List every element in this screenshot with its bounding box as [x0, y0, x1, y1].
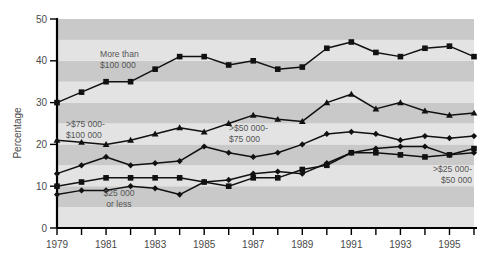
data-point-marker — [250, 58, 256, 64]
x-tick-label: 1987 — [242, 239, 265, 250]
x-tick-label: 1991 — [340, 239, 363, 250]
annotation-line: More than — [100, 49, 139, 59]
data-point-marker — [177, 54, 183, 60]
data-point-marker — [79, 179, 85, 185]
x-tick-label: 1981 — [95, 239, 118, 250]
y-tick-label: 20 — [36, 139, 48, 150]
data-point-marker — [103, 175, 109, 181]
y-tick-label: 30 — [36, 97, 48, 108]
ann-more-than-100000: More than$100 000 — [100, 49, 139, 70]
y-tick-label: 0 — [41, 223, 47, 234]
annotation-line: >$50 000- — [229, 123, 268, 133]
data-point-marker — [128, 79, 134, 85]
chart-canvas: 01020304050 1979198119831985198719891991… — [0, 0, 497, 268]
data-point-marker — [177, 175, 183, 181]
x-tick-label: 1995 — [438, 239, 461, 250]
data-point-marker — [54, 100, 60, 106]
data-point-marker — [226, 62, 232, 68]
data-point-marker — [128, 175, 134, 181]
data-point-marker — [324, 45, 330, 51]
data-point-marker — [398, 54, 404, 60]
data-point-marker — [54, 183, 60, 189]
data-point-marker — [275, 66, 281, 72]
data-point-marker — [79, 89, 85, 95]
y-axis-title: Percentage — [12, 107, 23, 159]
y-axis-ticks: 01020304050 — [36, 14, 57, 234]
data-point-marker — [152, 66, 158, 72]
annotation-line: >$75 000- — [66, 119, 105, 129]
data-point-marker — [152, 175, 158, 181]
annotation-line: $100 000 — [66, 130, 102, 140]
annotation-line: >$25 000- — [433, 164, 472, 174]
data-point-marker — [275, 175, 281, 181]
annotation-line: $75 000 — [229, 134, 260, 144]
x-tick-label: 1989 — [291, 239, 314, 250]
y-tick-label: 40 — [36, 55, 48, 66]
x-axis-ticks: 197919811983198519871989199119931995 — [46, 228, 474, 250]
background-band — [57, 207, 474, 228]
x-tick-label: 1979 — [46, 239, 69, 250]
data-point-marker — [422, 154, 428, 160]
data-point-marker — [447, 43, 453, 49]
data-point-marker — [201, 54, 207, 60]
line-chart: 01020304050 1979198119831985198719891991… — [0, 0, 497, 268]
data-point-marker — [349, 39, 355, 45]
data-point-marker — [471, 54, 477, 60]
x-tick-label: 1985 — [193, 239, 216, 250]
annotation-line: $50 000 — [441, 175, 472, 185]
background-band — [57, 19, 474, 40]
ann-25000-or-less: $25 000or less — [103, 188, 134, 209]
y-tick-label: 50 — [36, 14, 48, 25]
data-point-marker — [422, 45, 428, 51]
annotation-line: $25 000 — [103, 188, 134, 198]
ann-75000-100000: >$75 000-$100 000 — [66, 119, 105, 140]
data-point-marker — [398, 152, 404, 158]
annotation-line: or less — [106, 199, 131, 209]
x-tick-label: 1983 — [144, 239, 167, 250]
x-tick-label: 1993 — [389, 239, 412, 250]
annotation-line: $100 000 — [100, 60, 136, 70]
data-point-marker — [299, 64, 305, 70]
data-point-marker — [103, 79, 109, 85]
data-point-marker — [373, 50, 379, 56]
y-tick-label: 10 — [36, 181, 48, 192]
background-band — [57, 165, 474, 186]
data-point-marker — [226, 183, 232, 189]
background-band — [57, 82, 474, 103]
